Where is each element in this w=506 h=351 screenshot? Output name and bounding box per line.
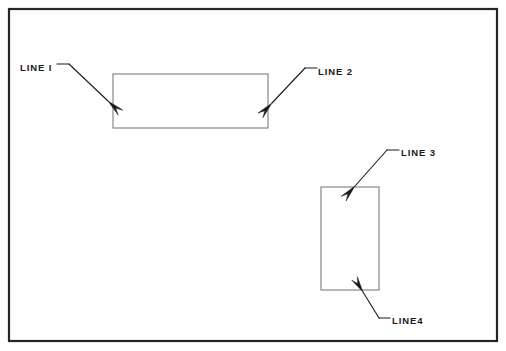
callout-label-line-2: LINE 2 — [318, 66, 353, 77]
drawing-border — [9, 9, 497, 341]
callout-label-line-4: LINE4 — [392, 315, 423, 326]
line-callout-diagram: LINE ILINE 2LINE 3LINE4 — [0, 0, 506, 351]
horizontal-rectangle — [113, 74, 268, 128]
vertical-rectangle — [321, 187, 379, 290]
callout-line-1: LINE I — [20, 62, 123, 115]
leader-line-line-1 — [69, 64, 108, 101]
leader-line-line-2 — [272, 68, 305, 103]
diagram-canvas: LINE ILINE 2LINE 3LINE4 — [0, 0, 506, 351]
callout-label-line-1: LINE I — [20, 62, 52, 73]
leader-line-line-3 — [355, 150, 387, 186]
callout-line-2: LINE 2 — [258, 66, 353, 118]
callout-label-line-3: LINE 3 — [401, 147, 436, 158]
leader-line-line-4 — [363, 292, 379, 318]
shape-layer — [113, 74, 379, 290]
